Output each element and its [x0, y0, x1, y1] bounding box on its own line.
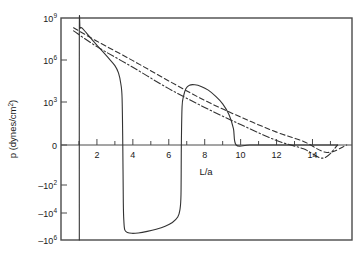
x-axis-tick-label: 4 — [130, 150, 135, 160]
x-axis-tick-label: 2 — [94, 150, 99, 160]
y-axis-title-main: p (dynes/cm — [7, 106, 18, 158]
x-axis-title: L/a — [199, 166, 213, 177]
y-axis-title: p (dynes/cm2) — [7, 100, 18, 159]
x-axis-tick-label: 8 — [202, 150, 207, 160]
chart-figure: 1091061030–102–104–106 2468101214 L/a p … — [0, 0, 363, 253]
x-axis-tick-label: 12 — [272, 150, 282, 160]
x-axis-tick-label: 14 — [307, 150, 317, 160]
y-axis-tick-label: 0 — [52, 141, 57, 151]
x-axis-tick-label: 6 — [166, 150, 171, 160]
svg-text:p (dynes/cm2): p (dynes/cm2) — [7, 100, 18, 159]
x-axis-tick-label: 10 — [236, 150, 246, 160]
y-axis-title-tail: ) — [7, 100, 18, 103]
chart-svg: 1091061030–102–104–106 2468101214 L/a p … — [0, 0, 363, 253]
